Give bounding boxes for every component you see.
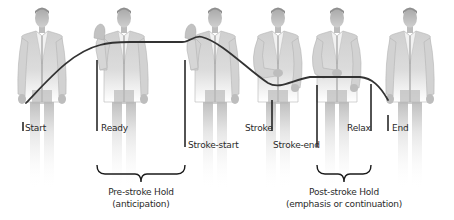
caption-subtitle: (anticipation) (71, 198, 211, 210)
figure-start (18, 8, 66, 191)
phase-label-stroke-start: Stroke-start (188, 140, 239, 150)
caption-pre-stroke-hold: Pre-stroke Hold(anticipation) (71, 186, 211, 210)
figure-end (386, 8, 434, 191)
phase-label-end: End (392, 123, 409, 133)
brace-pre-stroke-hold (97, 165, 185, 182)
caption-title: Post-stroke Hold (274, 186, 414, 198)
phase-label-relax: Relax (347, 123, 371, 133)
caption-post-stroke-hold: Post-stroke Hold(emphasis or continuatio… (274, 186, 414, 210)
phase-label-stroke: Stroke (245, 123, 272, 133)
figure-ready (94, 8, 148, 191)
caption-subtitle: (emphasis or continuation) (274, 198, 414, 210)
figure-stroke (253, 8, 302, 191)
phase-label-ready: Ready (101, 123, 128, 133)
caption-title: Pre-stroke Hold (71, 186, 211, 198)
phase-label-stroke-end: Stroke-end (273, 140, 320, 150)
figure-stroke-start (185, 8, 239, 191)
phase-label-start: Start (25, 123, 46, 133)
figure-stroke-end (312, 8, 361, 191)
gesture-phase-diagram: StartReadyStroke-startStrokeStroke-endRe… (0, 0, 454, 220)
